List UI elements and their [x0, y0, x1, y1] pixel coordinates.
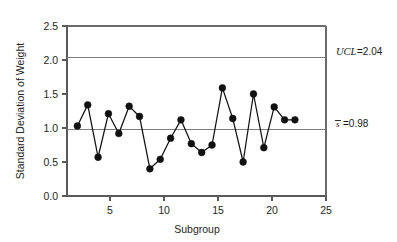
data-point: [240, 159, 247, 166]
data-point: [271, 104, 278, 111]
x-axis-title: Subgroup: [174, 223, 220, 235]
y-tick-label: 0.0: [43, 190, 58, 202]
data-point: [115, 130, 122, 137]
data-point: [126, 103, 133, 110]
data-point: [229, 115, 236, 122]
data-point: [188, 140, 195, 147]
x-tick-label: 15: [212, 204, 224, 216]
data-point: [178, 116, 185, 123]
y-axis-title: Standard Deviation of Weight: [14, 43, 26, 179]
y-tick-label: 0.5: [43, 156, 58, 168]
data-point: [167, 135, 174, 142]
x-tick-label: 10: [158, 204, 170, 216]
ucl-symbol: UCL: [336, 46, 357, 57]
x-tick-label: 20: [266, 204, 278, 216]
ucl-annotation: UCL =2.04: [336, 46, 383, 57]
x-tick-label: 25: [320, 204, 332, 216]
data-point: [260, 144, 267, 151]
data-point: [250, 91, 257, 98]
data-point: [281, 116, 288, 123]
y-tick-label: 2.0: [43, 54, 58, 66]
data-point: [146, 165, 153, 172]
data-point: [157, 156, 164, 163]
data-point: [136, 113, 143, 120]
x-tick-label: 5: [107, 204, 113, 216]
data-point: [292, 116, 299, 123]
ucl-value: =2.04: [357, 46, 383, 57]
y-tick-label: 1.0: [43, 122, 58, 134]
data-point: [209, 142, 216, 149]
data-point: [105, 110, 112, 117]
chart-canvas: 0.0 0.5 1.0 1.5 2.0 2.5 5 10 15 20 25 Su…: [0, 0, 397, 242]
data-point: [198, 149, 205, 156]
s-control-chart: 0.0 0.5 1.0 1.5 2.0 2.5 5 10 15 20 25 Su…: [0, 0, 397, 242]
sbar-value: =0.98: [343, 118, 369, 129]
data-point: [84, 101, 91, 108]
data-point: [219, 84, 226, 91]
sbar-symbol: s: [336, 119, 340, 129]
data-point: [74, 123, 81, 130]
data-point: [95, 154, 102, 161]
y-tick-label: 2.5: [43, 20, 58, 32]
y-tick-label: 1.5: [43, 88, 58, 100]
